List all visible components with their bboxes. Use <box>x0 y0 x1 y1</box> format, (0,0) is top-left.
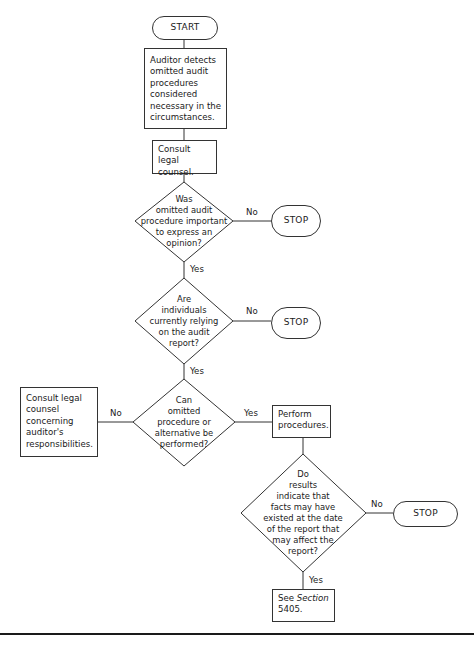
see-section-box: See Section 5405. <box>272 589 335 622</box>
d3-yes-label: Yes <box>244 408 258 418</box>
d2-yes-label: Yes <box>190 366 204 376</box>
see-prefix: See <box>278 593 297 603</box>
d4-yes-label: Yes <box>309 575 323 585</box>
decision-2-text: Are individuals currently relying on the… <box>140 284 228 358</box>
start-terminal: START <box>152 16 218 40</box>
stop-terminal-1: STOP <box>271 205 321 237</box>
bottom-rule <box>0 633 474 635</box>
stop-terminal-2: STOP <box>271 307 321 339</box>
section-number: 5405. <box>278 604 303 614</box>
d2-no-label: No <box>246 306 258 316</box>
step-detect-omitted: Auditor detects omitted audit procedures… <box>144 48 227 129</box>
stop-terminal-3: STOP <box>393 501 458 527</box>
stop-label: STOP <box>284 215 309 226</box>
start-label: START <box>171 22 200 33</box>
step-consult-counsel: Consult legal counsel. <box>152 140 217 174</box>
d1-no-label: No <box>246 207 258 217</box>
perform-procedures-box: Perform procedures. <box>272 405 331 438</box>
connector-lines <box>0 0 474 645</box>
d3-no-label: No <box>110 408 122 418</box>
decision-3-text: Can omitted procedure or alternative be … <box>142 384 226 460</box>
decision-1-text: Was omitted audit procedure important to… <box>140 186 228 256</box>
consult-responsibilities-box: Consult legal counsel concerning auditor… <box>20 387 98 457</box>
stop-label: STOP <box>284 317 309 328</box>
decision-4-text: Do results indicate that facts may have … <box>246 460 360 566</box>
stop-label: STOP <box>413 508 438 519</box>
d1-yes-label: Yes <box>190 264 204 274</box>
d4-no-label: No <box>371 499 383 509</box>
section-word: Section <box>297 593 329 603</box>
